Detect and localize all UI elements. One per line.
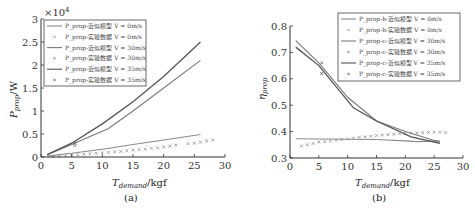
chart-b-legend: P_prop-h-近似模型 V = 0m/sP_prop-h-实验数据 V = … <box>338 13 460 81</box>
legend-entry: P_prop-c-实验数据 V = 30m/s <box>359 48 445 56</box>
legend-entry: P_prop-实验数据 V = 35m/s <box>65 76 146 84</box>
x-tick-label: 20 <box>157 160 170 171</box>
y-tick-label: 1.5 <box>22 83 38 94</box>
data-marker <box>83 153 86 156</box>
x-tick-label: 25 <box>428 161 441 172</box>
data-marker <box>415 132 418 135</box>
y-tick-label: 0.8 <box>271 21 287 32</box>
legend-entry: P_prop-c-近似模型 V = 30m/s <box>359 37 445 45</box>
data-marker <box>427 131 430 134</box>
data-marker <box>306 143 309 146</box>
legend-entry: P_prop-近似模型 V = 30m/s <box>65 44 146 52</box>
y-tick-label: 0.3 <box>271 153 287 164</box>
data-marker <box>387 133 390 136</box>
data-marker <box>211 139 214 142</box>
x-tick-label: 10 <box>96 160 109 171</box>
x-tick-label: 5 <box>316 161 322 172</box>
data-marker <box>439 131 442 134</box>
data-marker <box>168 145 171 148</box>
legend-entry: P_prop-h-近似模型 V = 0m/s <box>359 15 442 23</box>
chart-b-xlabel: Tdemand/kgf <box>355 177 411 190</box>
data-marker <box>76 153 79 156</box>
legend-entry: P_prop-近似模型 V = 0m/s <box>65 22 142 30</box>
chart-b-ylabel: ηprop <box>256 77 269 100</box>
data-marker <box>132 149 135 152</box>
data-marker <box>144 148 147 151</box>
data-marker <box>358 136 361 139</box>
legend-entry: P_prop-c-实验数据 V = 35m/s <box>359 70 445 78</box>
data-marker <box>320 62 323 65</box>
legend-entry: P_prop-近似模型 V = 35m/s <box>65 65 146 73</box>
y-tick-label: 2.5 <box>22 37 38 48</box>
data-marker <box>119 150 122 153</box>
data-marker <box>175 144 178 147</box>
y-tick-label: 0 <box>32 152 38 163</box>
data-marker <box>375 134 378 137</box>
data-marker <box>187 142 190 145</box>
data-marker <box>156 146 159 149</box>
x-tick-label: 0 <box>287 161 293 172</box>
data-marker <box>444 131 447 134</box>
data-marker <box>364 135 367 138</box>
x-tick-label: 10 <box>341 161 354 172</box>
legend-entry: P_prop-c-近似模型 V = 35m/s <box>359 59 445 67</box>
x-tick-label: 20 <box>399 161 412 172</box>
legend-entry: P_prop-实验数据 V = 30m/s <box>65 54 146 62</box>
data-marker <box>162 145 165 148</box>
data-marker <box>433 131 436 134</box>
data-marker <box>107 151 110 154</box>
data-marker <box>320 72 323 75</box>
data-marker <box>205 140 208 143</box>
data-marker <box>193 142 196 145</box>
data-marker <box>113 151 116 154</box>
chart-b-caption: (b) <box>372 192 386 203</box>
x-tick-label: 30 <box>219 160 232 171</box>
data-marker <box>95 152 98 155</box>
data-marker <box>317 141 320 144</box>
chart-a-legend: P_prop-近似模型 V = 0m/sP_prop-实验数据 V = 0m/s… <box>44 20 146 86</box>
legend-entry: P_prop-实验数据 V = 0m/s <box>65 33 142 41</box>
data-marker <box>323 140 326 143</box>
y-tick-label: 3 <box>32 14 38 25</box>
y-tick-label: 0.7 <box>271 47 287 58</box>
data-marker <box>392 133 395 136</box>
x-tick-label: 25 <box>188 160 201 171</box>
data-marker <box>199 141 202 144</box>
y-tick-label: 0.4 <box>271 126 287 137</box>
chart-a-xlabel: Tdemand/kgf <box>112 177 168 190</box>
data-marker <box>421 131 424 134</box>
data-marker <box>300 145 303 148</box>
data-marker <box>312 142 315 145</box>
data-marker <box>138 148 141 151</box>
x-tick-label: 15 <box>127 160 140 171</box>
chart-a-ylabel: Pprop/W <box>8 80 21 119</box>
chart-a-caption: (a) <box>124 192 138 203</box>
data-marker <box>369 135 372 138</box>
x-tick-label: 0 <box>38 160 44 171</box>
x-tick-label: 15 <box>370 161 383 172</box>
data-marker <box>150 147 153 150</box>
x-tick-label: 5 <box>68 160 74 171</box>
chart-a: 05101520253000.511.522.53 ×104 Pprop/W T… <box>8 6 231 203</box>
y-tick-label: 0.5 <box>22 129 38 140</box>
legend-entry: P_prop-h-实验数据 V = 0m/s <box>359 26 442 34</box>
figure: 05101520253000.511.522.53 ×104 Pprop/W T… <box>0 0 475 211</box>
data-marker <box>381 134 384 137</box>
y-tick-label: 0.5 <box>271 100 287 111</box>
data-marker <box>89 152 92 155</box>
y-tick-label: 0.6 <box>271 73 287 84</box>
y-tick-label: 2 <box>32 60 38 71</box>
y-tick-label: 1 <box>32 106 38 117</box>
data-marker <box>329 139 332 142</box>
data-marker <box>101 151 104 154</box>
chart-b: 0510152025300.30.40.50.60.70.8 ηprop Tde… <box>256 13 469 203</box>
data-marker <box>125 149 128 152</box>
chart-a-multiplier: ×104 <box>44 6 70 18</box>
x-tick-label: 30 <box>457 161 470 172</box>
